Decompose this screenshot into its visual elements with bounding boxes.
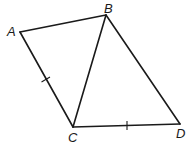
vertex-label-b: B [104, 1, 113, 16]
segment-ab [20, 15, 106, 32]
vertex-label-d: D [176, 126, 185, 141]
vertex-label-c: C [68, 130, 78, 145]
segment-bc [73, 15, 106, 127]
vertex-label-a: A [6, 24, 16, 39]
segment-bd [106, 15, 180, 124]
geometry-diagram: A B C D [0, 0, 193, 147]
